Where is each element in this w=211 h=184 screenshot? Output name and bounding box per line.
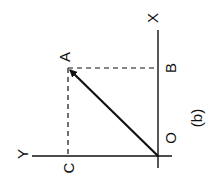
x-axis-label: X <box>145 13 160 23</box>
point-a-label: A <box>57 52 72 62</box>
figure-caption: (b) <box>189 109 204 127</box>
point-c-label: C <box>61 163 76 174</box>
point-b-label: B <box>163 63 178 73</box>
y-axis-label: Y <box>15 149 30 159</box>
diagram-canvas <box>0 0 211 184</box>
origin-label: O <box>163 132 178 144</box>
vector-components-diagram: X Y A B C O (b) <box>0 0 211 184</box>
vector-o-a <box>70 70 158 156</box>
